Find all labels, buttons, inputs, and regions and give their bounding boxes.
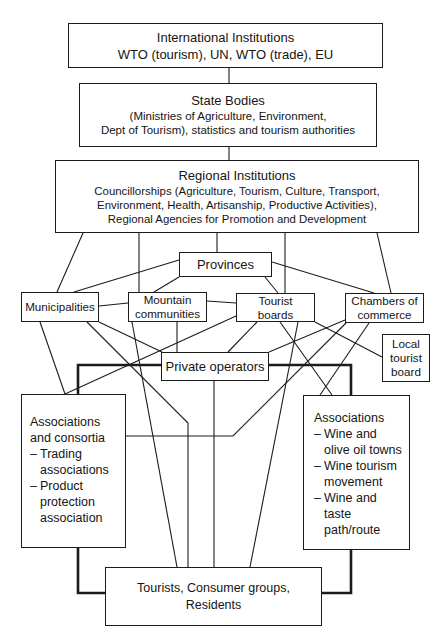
tourist-boards-line: boards (258, 308, 293, 322)
mountain-communities-box: Mountain communities (128, 292, 207, 322)
local-tourist-board-box: Local tourist board (382, 334, 430, 382)
stakeholder-network-diagram: International Institutions WTO (tourism)… (0, 0, 448, 639)
tourists-consumers-residents-box: Tourists, Consumer groups, Residents (105, 567, 322, 626)
associations-consortia-item-cont: protection (30, 494, 125, 510)
associations-consortia-item-cont: association (30, 510, 125, 526)
tourists-line: Tourists, Consumer groups, (137, 580, 290, 597)
local-tourist-board-line: board (391, 365, 421, 379)
mountain-communities-line: Mountain (144, 293, 192, 307)
dash-bullet: – (314, 426, 321, 442)
international-institutions-members: WTO (tourism), UN, WTO (trade), EU (118, 46, 333, 63)
chambers-of-commerce-box: Chambers of commerce (345, 293, 424, 323)
municipalities-label: Municipalities (25, 300, 95, 314)
regional-institutions-box: Regional Institutions Councillorships (A… (55, 160, 419, 233)
associations-item-cont: movement (314, 474, 409, 490)
tourist-boards-line: Tourist (258, 294, 292, 308)
item-text: Trading (40, 447, 82, 461)
regional-institutions-title: Regional Institutions (178, 168, 295, 184)
edge-regional-municipalities (57, 233, 83, 292)
associations-item: – Wine tourism (314, 458, 409, 474)
dash-bullet: – (30, 446, 37, 462)
edge-tourist-boards-local-tourist-board (315, 322, 382, 357)
associations-consortia-box: Associations and consortia – Trading ass… (21, 394, 126, 548)
associations-consortia-heading: and consortia (30, 430, 125, 446)
international-institutions-box: International Institutions WTO (tourism)… (68, 23, 383, 68)
tourist-boards-box: Tourist boards (236, 293, 315, 322)
state-bodies-title: State Bodies (191, 93, 265, 109)
associations-consortia-item: – Trading (30, 446, 125, 462)
state-bodies-line: Dept of Tourism), statistics and tourism… (101, 123, 355, 137)
item-text: Wine and (324, 491, 377, 505)
mountain-communities-line: communities (135, 307, 200, 321)
municipalities-box: Municipalities (21, 292, 99, 322)
state-bodies-box: State Bodies (Ministries of Agriculture,… (79, 83, 377, 147)
associations-item: – Wine and (314, 426, 409, 442)
provinces-label: Provinces (197, 256, 254, 273)
thick-edge-tourists-associations (322, 550, 351, 593)
provinces-box: Provinces (179, 252, 272, 277)
edge-provinces-chambers (272, 262, 374, 293)
local-tourist-board-line: tourist (390, 351, 422, 365)
associations-item-cont: taste (314, 506, 409, 522)
local-tourist-board-line: Local (392, 337, 420, 351)
chambers-of-commerce-line: commerce (357, 308, 411, 322)
item-text: Wine and (324, 427, 377, 441)
item-text: Product (40, 479, 83, 493)
thick-edge-private-operators-associations (269, 365, 351, 395)
associations-item-cont: olive oil towns (314, 442, 409, 458)
associations-item-cont: path/route (314, 522, 409, 538)
associations-heading: Associations (314, 410, 409, 426)
edge-mountain-tourist-boards (207, 301, 236, 303)
edge-regional-chambers (377, 233, 391, 293)
edge-provinces-tourist-boards (265, 277, 278, 293)
international-institutions-title: International Institutions (157, 29, 294, 46)
associations-item: – Wine and (314, 490, 409, 506)
private-operators-box: Private operators (161, 352, 269, 381)
edge-chambers-associations (320, 323, 369, 395)
edge-municipalities-assoc-consortia (40, 322, 65, 394)
state-bodies-line: (Ministries of Agriculture, Environment, (130, 109, 327, 123)
edge-municipalities-mountain (99, 303, 128, 306)
dash-bullet: – (30, 478, 37, 494)
associations-box: Associations – Wine and olive oil towns … (303, 395, 410, 550)
edge-tourist-boards-associations (280, 322, 332, 395)
edge-municipalities-private-operators (99, 322, 162, 352)
chambers-of-commerce-line: Chambers of (351, 294, 417, 308)
regional-institutions-line: Councillorships (Agriculture, Tourism, C… (94, 184, 379, 198)
regional-institutions-line: Environment, Health, Artisanship, Produc… (97, 198, 377, 212)
private-operators-label: Private operators (166, 358, 265, 375)
thick-edge-assoc-consortia-tourists (78, 548, 105, 593)
edge-tourist-boards-private-operators (228, 322, 257, 352)
edge-provinces-mountain (154, 277, 179, 292)
regional-institutions-line: Regional Agencies for Promotion and Deve… (108, 212, 366, 226)
edge-provinces-municipalities (74, 260, 179, 292)
tourists-line: Residents (186, 597, 242, 614)
dash-bullet: – (314, 490, 321, 506)
item-text: Wine tourism (324, 459, 397, 473)
dash-bullet: – (314, 458, 321, 474)
associations-consortia-item-cont: associations (30, 462, 125, 478)
associations-consortia-item: – Product (30, 478, 125, 494)
associations-consortia-heading: Associations (30, 414, 125, 430)
